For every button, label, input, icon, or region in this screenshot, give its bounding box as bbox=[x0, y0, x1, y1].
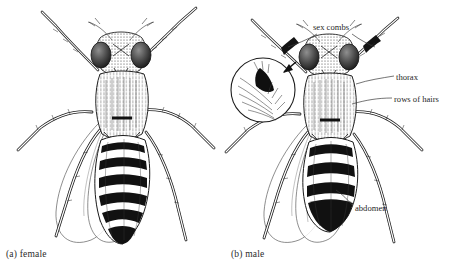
male-abdomen bbox=[303, 138, 358, 233]
caption-panel-b: (b) male bbox=[231, 249, 265, 259]
label-abdomen: abdomen bbox=[355, 203, 387, 213]
figure-drosophila-sexes: sex combs thorax rows of hairs abdomen (… bbox=[0, 0, 459, 270]
leader-thorax bbox=[356, 76, 394, 84]
leader-rows-of-hairs bbox=[352, 98, 392, 104]
fly-male bbox=[226, 18, 422, 242]
fly-female bbox=[18, 8, 214, 244]
label-rows-of-hairs: rows of hairs bbox=[394, 94, 439, 104]
male-eye-right bbox=[339, 44, 359, 70]
label-sex-combs: sex combs bbox=[313, 22, 349, 32]
female-abdomen bbox=[95, 136, 150, 245]
male-eye-left bbox=[299, 44, 319, 70]
female-eye-right bbox=[131, 42, 151, 68]
label-thorax: thorax bbox=[396, 72, 418, 82]
caption-panel-a: (a) female bbox=[6, 249, 47, 259]
female-head bbox=[88, 18, 154, 76]
sex-comb-inset bbox=[231, 58, 296, 122]
female-eye-left bbox=[91, 42, 111, 68]
illustration-canvas bbox=[0, 0, 459, 270]
